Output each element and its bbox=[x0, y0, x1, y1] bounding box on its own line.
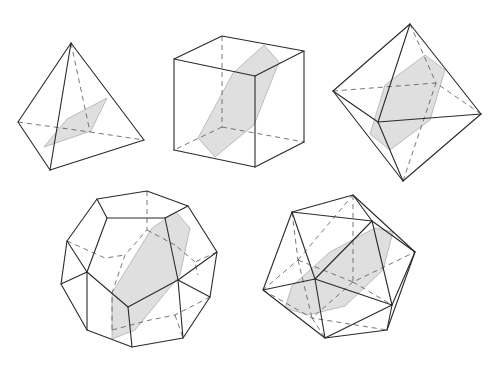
platonic-solids-figure bbox=[0, 0, 500, 367]
tetrahedron-section bbox=[44, 98, 107, 147]
tetrahedron bbox=[18, 43, 144, 170]
dodecahedron bbox=[61, 191, 217, 347]
figure-canvas bbox=[0, 0, 500, 367]
octahedron bbox=[333, 24, 481, 181]
icosahedron bbox=[263, 195, 415, 338]
cube bbox=[174, 36, 304, 167]
octahedron-section bbox=[370, 55, 445, 150]
cube-section bbox=[198, 45, 279, 157]
